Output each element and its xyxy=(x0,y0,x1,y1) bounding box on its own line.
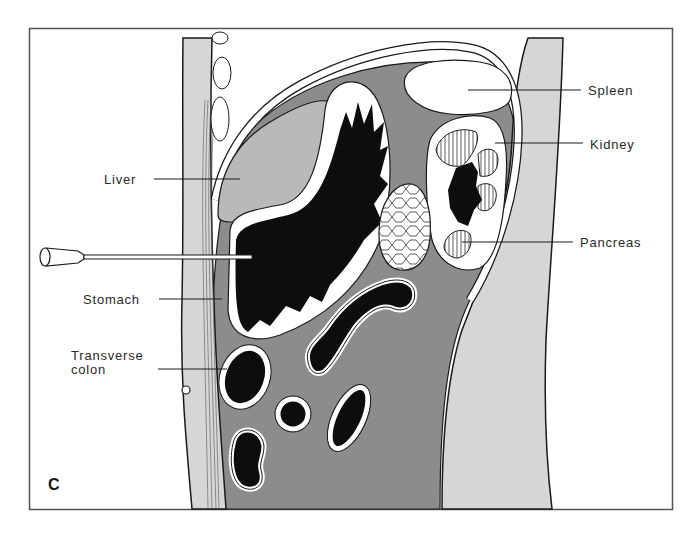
diagram-canvas xyxy=(0,0,694,536)
wall-vessel-1 xyxy=(213,57,231,89)
needle-shaft xyxy=(84,255,252,259)
label-transverse-colon-line1: Transverse xyxy=(71,349,144,362)
label-liver: Liver xyxy=(104,173,136,186)
label-stomach: Stomach xyxy=(83,293,140,306)
wall-vessel-3 xyxy=(212,32,228,44)
label-transverse-colon-line2: colon xyxy=(71,363,106,376)
needle-hub xyxy=(46,248,84,266)
label-spleen: Spleen xyxy=(588,84,633,97)
label-pancreas: Pancreas xyxy=(580,236,641,249)
anatomical-cross-section-figure: Liver Stomach Transverse colon Spleen Ki… xyxy=(0,0,694,536)
label-kidney: Kidney xyxy=(590,138,635,151)
panel-letter: C xyxy=(48,476,60,494)
umbilical-node xyxy=(182,386,190,394)
small-bowel-round xyxy=(278,399,308,429)
wall-vessel-2 xyxy=(211,97,229,141)
